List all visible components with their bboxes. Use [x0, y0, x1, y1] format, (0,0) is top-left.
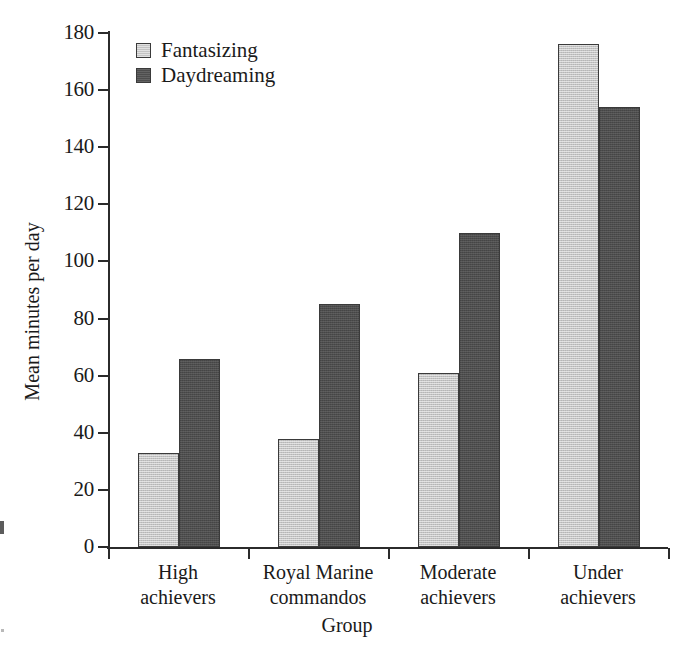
y-axis-tick-label: 40 — [44, 422, 94, 443]
x-axis-category-label-line: commandos — [248, 585, 388, 610]
x-axis-category-label-line: Moderate — [388, 560, 528, 585]
bar-fantasizing-3 — [558, 44, 599, 547]
x-axis-tick — [108, 548, 110, 559]
x-axis-category-label: Underachievers — [528, 560, 668, 610]
y-axis-tick-label: 140 — [44, 136, 94, 157]
x-axis-category-label-line: achievers — [528, 585, 668, 610]
bar-fantasizing-0 — [138, 453, 179, 547]
x-axis-category-label: Highachievers — [108, 560, 248, 610]
x-axis-tick — [668, 548, 670, 559]
legend-swatch-daydreaming-icon — [136, 68, 151, 83]
x-axis-category-label: Moderateachievers — [388, 560, 528, 610]
legend-swatch-fantasizing-icon — [136, 43, 151, 58]
bar-daydreaming-1 — [319, 304, 360, 547]
y-axis-tick-label: 0 — [44, 536, 94, 557]
x-axis-category-label-line: achievers — [388, 585, 528, 610]
y-axis-tick-label: 80 — [44, 308, 94, 329]
bar-daydreaming-3 — [599, 107, 640, 547]
x-axis-category-label-line: achievers — [108, 585, 248, 610]
x-axis-category-label: Royal Marinecommandos — [248, 560, 388, 610]
bar-fantasizing-2 — [418, 373, 459, 547]
y-axis-label: Mean minutes per day — [21, 192, 44, 432]
legend-label-daydreaming: Daydreaming — [161, 65, 275, 86]
y-axis-tick-label-text: 80 — [50, 308, 94, 329]
legend-item-fantasizing: Fantasizing — [136, 38, 275, 63]
x-axis-tick — [528, 548, 530, 559]
chart-legend: Fantasizing Daydreaming — [136, 38, 275, 88]
y-axis-tick-label-text: 0 — [50, 536, 94, 557]
y-axis-tick-label-text: 160 — [50, 79, 94, 100]
x-axis-tick — [388, 548, 390, 559]
x-axis-category-label-line: Under — [528, 560, 668, 585]
x-axis-category-label-line: Royal Marine — [248, 560, 388, 585]
y-axis-tick-label: 100 — [44, 250, 94, 271]
y-axis-tick-label: 20 — [44, 479, 94, 500]
y-axis-tick-label: 120 — [44, 193, 94, 214]
x-axis-tick — [248, 548, 250, 559]
y-axis-tick-label-text: 40 — [50, 422, 94, 443]
x-axis-label: Group — [0, 614, 694, 637]
y-axis-tick-label: 160 — [44, 79, 94, 100]
legend-label-fantasizing: Fantasizing — [161, 40, 258, 61]
y-axis-tick-label-text: 140 — [50, 136, 94, 157]
y-axis-tick-label-text: 60 — [50, 365, 94, 386]
x-axis-category-label-line: High — [108, 560, 248, 585]
plot-area — [108, 33, 668, 547]
bar-chart-figure: 020406080100120140160180 Mean minutes pe… — [0, 0, 694, 656]
y-axis-tick-label-text: 20 — [50, 479, 94, 500]
y-axis-tick-label: 60 — [44, 365, 94, 386]
y-axis-tick-label: 180 — [44, 22, 94, 43]
bar-daydreaming-2 — [459, 233, 500, 547]
bar-daydreaming-0 — [179, 359, 220, 547]
y-axis-tick-label-text: 100 — [50, 250, 94, 271]
bar-fantasizing-1 — [278, 439, 319, 548]
y-axis-tick-label-text: 120 — [50, 193, 94, 214]
scan-artifact-mark — [0, 521, 4, 534]
y-axis-tick-label-text: 180 — [50, 22, 94, 43]
legend-item-daydreaming: Daydreaming — [136, 63, 275, 88]
